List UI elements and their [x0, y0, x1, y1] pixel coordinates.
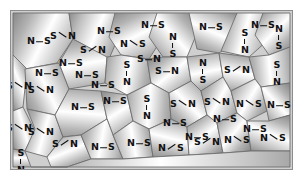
bond-label: SN: [204, 95, 230, 107]
bond-label: NS: [97, 26, 121, 36]
bond-label: SN: [50, 29, 76, 41]
bond-label: SN: [224, 63, 250, 75]
bond-label: NS: [185, 132, 209, 142]
bond-label: SN: [143, 94, 151, 120]
bond-label: NS: [236, 97, 262, 109]
bond-label: NS: [103, 96, 127, 106]
bond-label: SN: [80, 43, 106, 55]
bond-label: SN: [155, 66, 179, 76]
bond-label: NS: [213, 114, 237, 124]
bond-label: NS: [91, 142, 115, 152]
bond-label: NS: [91, 80, 115, 90]
bond-label: NS: [158, 141, 184, 153]
bond-label: NS: [267, 100, 291, 110]
bond-label: NS: [127, 138, 151, 148]
bond-label: NS: [27, 36, 51, 46]
bond-label: NS: [71, 102, 95, 112]
bond-label: SN: [241, 28, 249, 54]
bond-label: NS: [243, 124, 267, 134]
bond-label: NS: [59, 58, 83, 68]
bond-label: NS: [251, 20, 275, 30]
bond-label-layer: NSSNNSNSNSSNNSSNSNNSSNSNNSSNSNSNSNNSNSSN…: [11, 11, 292, 169]
bond-label: NS: [224, 133, 250, 145]
figure-canvas: NSSNNSNSNSSNNSSNSNNSSNSNNSSNSNSNSNNSNSSN…: [0, 0, 304, 182]
bond-label: SN: [170, 97, 196, 109]
bond-label: SN: [17, 148, 25, 170]
bond-label: NS: [275, 24, 283, 50]
bond-label: NS: [163, 118, 187, 128]
bond-label: SN: [28, 125, 54, 137]
bond-label: SN: [273, 60, 281, 86]
bond-label: SN: [123, 60, 131, 86]
bond-label: SN: [137, 54, 161, 64]
bond-label: NS: [35, 68, 59, 78]
bond-label: NS: [199, 58, 207, 84]
bond-label: NS: [141, 20, 165, 30]
bond-label: NS: [120, 37, 146, 49]
microstructure-figure: NSSNNSNSNSSNNSSNSNNSSNSNNSSNSNSNSNNSNSSN…: [10, 10, 293, 170]
bond-label: NS: [169, 32, 177, 58]
bond-label: SN: [52, 137, 78, 149]
bond-label: NS: [199, 22, 223, 32]
bond-label: SN: [28, 83, 54, 95]
